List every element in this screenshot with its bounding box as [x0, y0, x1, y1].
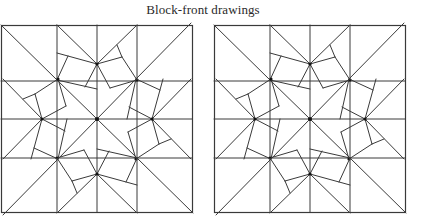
pattern-line — [372, 139, 384, 144]
pattern-line — [270, 158, 285, 181]
pattern-line — [57, 56, 68, 80]
pattern-line — [349, 144, 372, 159]
pattern-line — [127, 79, 136, 119]
pattern-line — [3, 159, 58, 215]
vertex-node — [308, 62, 311, 65]
pattern-line — [57, 150, 84, 158]
pattern-line — [122, 57, 137, 80]
vertex-node — [253, 117, 256, 120]
pattern-line — [341, 119, 365, 132]
pattern-line — [58, 119, 67, 159]
pattern-line — [34, 148, 58, 159]
pattern-line — [23, 94, 35, 99]
pattern-line — [271, 119, 310, 159]
pattern-line — [341, 132, 349, 159]
pattern-line — [216, 159, 271, 215]
pattern-line — [85, 64, 97, 87]
pattern-line — [236, 94, 248, 99]
pattern-line — [97, 64, 110, 88]
vertex-node — [56, 77, 59, 80]
pattern-line — [310, 149, 350, 158]
pattern-line — [72, 181, 77, 193]
block-drawing-right — [214, 23, 406, 215]
pattern-line — [128, 119, 152, 132]
vertex-node — [269, 77, 272, 80]
pattern-line — [349, 23, 404, 79]
pattern-line — [270, 80, 310, 119]
vertex-node — [308, 117, 311, 120]
pattern-line — [97, 79, 136, 119]
pattern-line — [270, 150, 297, 158]
pattern-line — [58, 79, 66, 106]
pattern-line — [97, 151, 109, 174]
pattern-line — [128, 132, 136, 159]
block-front-drawings — [0, 0, 426, 221]
pattern-line — [137, 158, 193, 213]
pattern-line — [310, 151, 322, 174]
pattern-line — [136, 23, 191, 79]
pattern-line — [255, 119, 278, 131]
pattern-line — [310, 79, 349, 119]
block-drawing-left — [1, 23, 193, 215]
vertex-node — [95, 117, 98, 120]
pattern-line — [129, 107, 152, 119]
pattern-line — [330, 45, 335, 57]
vertex-node — [308, 172, 311, 175]
pattern-line — [97, 119, 137, 158]
pattern-line — [136, 144, 159, 159]
pattern-line — [57, 80, 97, 119]
pattern-line — [126, 158, 137, 182]
pattern-line — [310, 64, 323, 88]
pattern-line — [340, 79, 349, 119]
pattern-line — [214, 25, 270, 80]
pattern-line — [97, 149, 137, 158]
pattern-line — [117, 45, 122, 57]
pattern-line — [342, 107, 365, 119]
pattern-line — [339, 158, 350, 182]
pattern-line — [298, 64, 310, 87]
pattern-line — [271, 119, 280, 159]
pattern-line — [57, 158, 72, 181]
pattern-line — [271, 79, 279, 106]
vertex-node — [95, 62, 98, 65]
vertex-node — [40, 117, 43, 120]
pattern-line — [310, 119, 350, 158]
pattern-line — [247, 148, 271, 159]
vertex-node — [150, 117, 153, 120]
pattern-line — [159, 139, 171, 144]
pattern-line — [84, 150, 97, 174]
pattern-line — [1, 25, 57, 80]
pattern-line — [42, 119, 65, 131]
vertex-node — [95, 172, 98, 175]
vertex-node — [363, 117, 366, 120]
pattern-line — [335, 57, 350, 80]
pattern-line — [297, 150, 310, 174]
pattern-line — [270, 56, 281, 80]
pattern-line — [285, 181, 290, 193]
pattern-line — [58, 119, 97, 159]
pattern-line — [42, 106, 66, 119]
pattern-line — [350, 158, 406, 213]
pattern-line — [255, 106, 279, 119]
